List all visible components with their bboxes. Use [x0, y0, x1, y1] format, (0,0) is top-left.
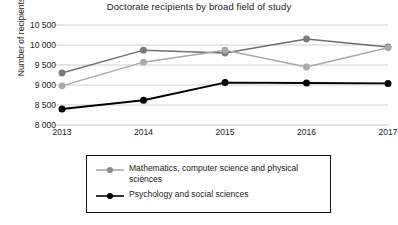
legend-label: Psychology and social sciences: [125, 189, 249, 200]
y-tick-label: 10 500: [8, 20, 56, 30]
chart-container: Doctorate recipients by broad field of s…: [0, 0, 398, 225]
y-tick-label: 9 500: [8, 60, 56, 70]
plot-svg: [0, 0, 398, 142]
data-point: [140, 47, 147, 54]
y-tick-label: 9 000: [8, 80, 56, 90]
legend-label: Mathematics, computer science and physic…: [125, 163, 322, 184]
legend-marker-icon: [95, 190, 125, 202]
data-point: [140, 59, 147, 66]
x-tick-label: 2013: [39, 127, 85, 137]
y-tick-label: 10 000: [8, 40, 56, 50]
legend-marker-icon: [95, 164, 125, 176]
x-tick-label: 2014: [121, 127, 167, 137]
data-point: [303, 64, 310, 71]
data-point: [385, 44, 392, 51]
data-point: [59, 82, 66, 89]
data-point: [222, 79, 229, 86]
y-tick-label: 8 500: [8, 100, 56, 110]
data-point: [303, 80, 310, 87]
data-point: [140, 97, 147, 104]
x-tick-label: 2017: [365, 127, 398, 137]
plot-area: [0, 0, 398, 142]
legend-item: Psychology and social sciences: [95, 189, 322, 202]
data-point: [385, 80, 392, 87]
x-tick-label: 2016: [284, 127, 330, 137]
data-point: [59, 106, 66, 113]
data-point: [59, 70, 66, 77]
x-tick-label: 2015: [202, 127, 248, 137]
data-point: [303, 36, 310, 43]
legend-item: Mathematics, computer science and physic…: [95, 163, 322, 184]
legend: Mathematics, computer science and physic…: [86, 155, 331, 213]
data-point: [222, 47, 229, 54]
